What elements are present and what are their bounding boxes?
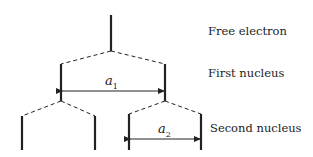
dashed-branch bbox=[61, 101, 95, 116]
dashed-branch bbox=[165, 101, 201, 114]
dashed-branch bbox=[61, 51, 111, 64]
label-second-nucleus: Second nucleus bbox=[210, 121, 302, 135]
label-first-nucleus: First nucleus bbox=[208, 66, 284, 80]
dashed-branch bbox=[129, 101, 165, 114]
a2-symbol: a2 bbox=[158, 121, 171, 139]
a1-symbol: a1 bbox=[105, 73, 118, 91]
label-free-electron: Free electron bbox=[208, 24, 287, 38]
dashed-branch bbox=[22, 101, 61, 116]
dashed-branch bbox=[111, 51, 165, 64]
